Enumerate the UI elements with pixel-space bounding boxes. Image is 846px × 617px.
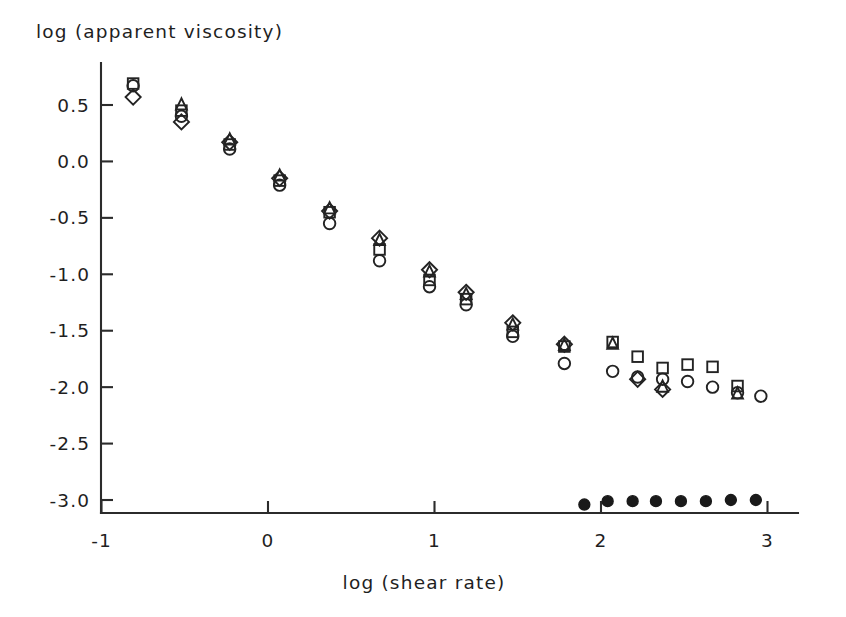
x-tick-label: -1: [91, 530, 112, 551]
y-tick-label: -3.0: [50, 490, 91, 511]
y-tick-label: -2.5: [50, 433, 91, 454]
marker-circle: [607, 366, 619, 378]
x-tick-label: 0: [262, 530, 275, 551]
x-axis-ticks: -10123: [91, 501, 774, 551]
y-tick-label: -0.5: [50, 207, 91, 228]
y-tick-label: -1.5: [50, 320, 91, 341]
y-axis-ticks: 0.50.0-0.5-1.0-1.5-2.0-2.5-3.0: [50, 95, 114, 511]
x-tick-label: 1: [428, 530, 441, 551]
x-axis-title: log (shear rate): [343, 572, 506, 593]
marker-square: [707, 362, 718, 373]
marker-square: [657, 363, 668, 374]
y-tick-label: -2.0: [50, 377, 91, 398]
marker-circle: [707, 381, 719, 393]
marker-filled-circle: [675, 496, 686, 507]
marker-filled-circle: [700, 496, 711, 507]
marker-filled-circle: [725, 495, 736, 506]
series-filled-circle: [579, 495, 761, 510]
marker-circle: [682, 376, 694, 388]
marker-triangle: [176, 98, 187, 109]
marker-circle: [559, 358, 571, 370]
series-triangle: [176, 98, 743, 398]
marker-circle: [755, 390, 767, 402]
y-tick-label: 0.5: [57, 95, 90, 116]
y-tick-label: -1.0: [50, 264, 91, 285]
y-axis-title: log (apparent viscosity): [36, 21, 283, 42]
series-square: [128, 78, 743, 391]
series-diamond: [126, 90, 671, 397]
marker-filled-circle: [602, 496, 613, 507]
chart-page: log (apparent viscosity) 0.50.0-0.5-1.0-…: [0, 0, 846, 617]
x-tick-label: 2: [595, 530, 608, 551]
y-tick-label: 0.0: [57, 151, 90, 172]
marker-circle: [374, 255, 386, 267]
marker-filled-circle: [627, 496, 638, 507]
marker-square: [682, 359, 693, 370]
scatter-plot: log (apparent viscosity) 0.50.0-0.5-1.0-…: [0, 0, 846, 617]
marker-filled-circle: [579, 499, 590, 510]
series-circle: [127, 80, 766, 402]
marker-filled-circle: [650, 496, 661, 507]
marker-filled-circle: [750, 495, 761, 506]
marker-square: [632, 351, 643, 362]
axes-group: [101, 63, 798, 513]
marker-circle: [424, 281, 436, 293]
x-tick-label: 3: [761, 530, 774, 551]
data-markers-group: [126, 78, 767, 510]
